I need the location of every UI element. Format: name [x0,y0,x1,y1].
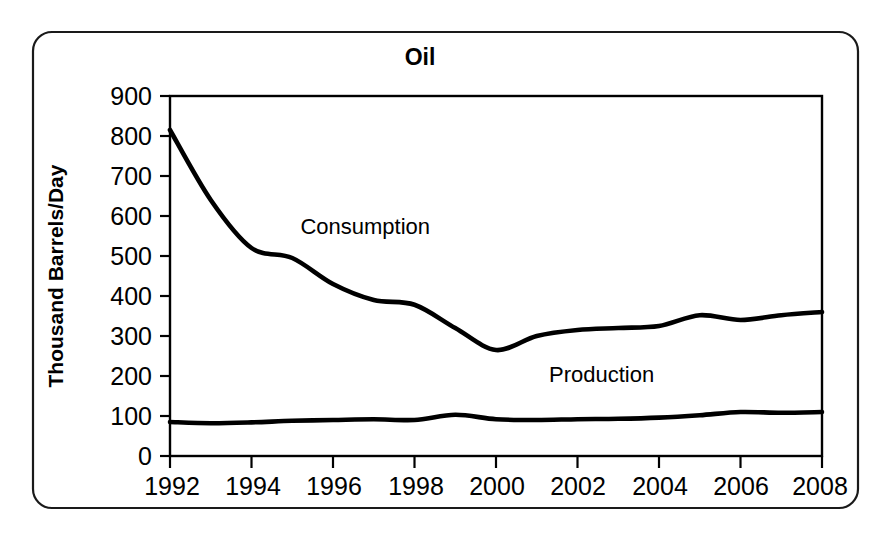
y-tick-label-0: 0 [138,442,152,470]
series-label-consumption: Consumption [300,214,430,239]
x-tick-label-2008: 2008 [792,472,848,500]
x-axis-tick-labels: 1992 1994 1996 1998 2000 2002 2004 2006 … [144,472,848,500]
y-tick-label-400: 400 [110,282,152,310]
x-tick-label-2000: 2000 [469,472,525,500]
y-tick-label-800: 800 [110,122,152,150]
y-tick-label-900: 900 [110,82,152,110]
x-tick-label-2006: 2006 [713,472,769,500]
x-tick-label-1992: 1992 [144,472,200,500]
y-tick-label-300: 300 [110,322,152,350]
y-tick-label-600: 600 [110,202,152,230]
chart-title: Oil [405,44,436,70]
x-tick-label-1998: 1998 [388,472,444,500]
y-tick-label-500: 500 [110,242,152,270]
y-axis-title: Thousand Barrels/Day [44,164,67,387]
series-label-production: Production [549,362,654,387]
y-tick-label-100: 100 [110,402,152,430]
x-tick-label-2004: 2004 [632,472,688,500]
plot-area-frame [170,96,822,456]
y-tick-label-200: 200 [110,362,152,390]
x-tick-label-1994: 1994 [225,472,281,500]
y-tick-label-700: 700 [110,162,152,190]
x-tick-label-2002: 2002 [550,472,606,500]
x-tick-label-1996: 1996 [306,472,362,500]
oil-line-chart-figure: Oil 900 800 700 600 500 400 300 200 100 … [0,0,886,539]
